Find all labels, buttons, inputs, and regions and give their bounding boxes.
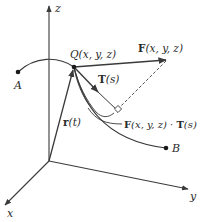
point-A <box>16 70 21 75</box>
vector-F <box>74 60 166 67</box>
dot-product-label: F(x, y, z) · T(s) <box>124 119 197 130</box>
tangent-T-label: T(s) <box>98 73 119 85</box>
vector-field-diagram: z y x A B Q(x, y, z) F(x, y, z) T(s) r(t… <box>0 0 216 222</box>
point-Q-label: Q(x, y, z) <box>70 48 116 61</box>
x-axis-label: x <box>7 207 14 220</box>
y-axis-label: y <box>189 190 197 203</box>
tangent-extension <box>98 92 117 110</box>
position-r-label: r(t) <box>63 116 81 128</box>
vector-F-label: F(x, y, z) <box>138 42 183 54</box>
projection-dashed-line <box>119 61 166 108</box>
curve-a-to-q <box>18 59 74 72</box>
point-B-label: B <box>171 142 180 155</box>
point-A-label: A <box>13 79 22 92</box>
point-Q <box>72 65 77 70</box>
y-axis <box>49 161 188 189</box>
axes: z y x <box>5 2 197 220</box>
right-angle-marker <box>114 105 121 112</box>
point-B <box>164 146 169 151</box>
z-axis-label: z <box>54 2 61 15</box>
x-axis <box>5 161 49 205</box>
